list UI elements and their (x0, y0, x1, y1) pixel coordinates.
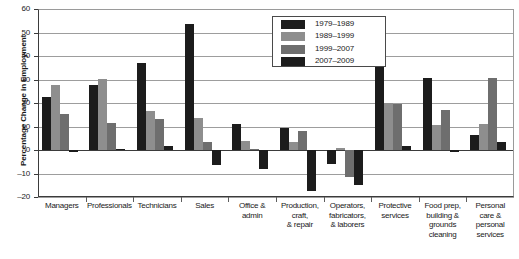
bar-chart: Percentage Change in Employment 60504030… (0, 0, 519, 259)
bar (259, 150, 268, 169)
bar (307, 150, 316, 191)
bar (423, 78, 432, 150)
y-tick-label: 20 (0, 98, 30, 107)
bar (116, 149, 125, 150)
legend-item: 1999–2007 (273, 44, 385, 55)
bar (203, 142, 212, 150)
legend-item: 1979–1989 (273, 19, 385, 30)
y-tick-mark (34, 33, 38, 34)
legend-item: 1989–1999 (273, 31, 385, 42)
bar (146, 111, 155, 150)
bar (51, 85, 60, 150)
bar (60, 114, 69, 150)
bar (89, 85, 98, 150)
x-axis-label: Professionals (86, 201, 134, 211)
bar (450, 150, 459, 152)
legend-rows: 1979–19891989–19991999–20072007–2009 (273, 19, 385, 68)
legend-label: 1999–2007 (315, 44, 354, 53)
bar (402, 146, 411, 150)
y-tick-mark (34, 174, 38, 175)
bar (354, 150, 363, 185)
x-axis-label: Office & admin (228, 201, 276, 220)
bar (432, 125, 441, 150)
gridline (38, 103, 514, 104)
legend-label: 1979–1989 (315, 19, 354, 28)
bar (212, 150, 221, 165)
legend-label: 1989–1999 (315, 31, 354, 40)
y-tick-label: 50 (0, 28, 30, 37)
y-tick-mark (34, 127, 38, 128)
x-axis-label: Operators, fabricators, & laborers (324, 201, 372, 230)
x-axis-label: Sales (181, 201, 229, 211)
legend-swatch (281, 32, 305, 41)
y-tick-label: –20 (0, 192, 30, 201)
zero-line (38, 150, 514, 151)
bar (470, 135, 479, 150)
bar (185, 24, 194, 150)
bar (137, 63, 146, 150)
y-tick-mark (34, 9, 38, 10)
bar (336, 148, 345, 150)
bar (441, 110, 450, 150)
bar (250, 149, 259, 150)
bar (107, 123, 116, 150)
bar (232, 124, 241, 150)
bar (488, 78, 497, 150)
legend-label: 2007–2009 (315, 56, 354, 65)
bar (194, 118, 203, 150)
legend-item: 2007–2009 (273, 56, 385, 67)
gridline (38, 80, 514, 81)
y-tick-label: –10 (0, 169, 30, 178)
y-tick-label: 10 (0, 122, 30, 131)
bar (98, 79, 107, 150)
y-tick-label: 40 (0, 51, 30, 60)
bar (345, 150, 354, 177)
y-tick-mark (34, 103, 38, 104)
bar (384, 103, 393, 150)
bar (393, 104, 402, 150)
legend: 1979–19891989–19991999–20072007–2009 (272, 16, 386, 67)
x-axis-label: Food prep, building & grounds cleaning (419, 201, 467, 239)
gridline (38, 174, 514, 175)
bar (289, 142, 298, 150)
bar (155, 119, 164, 150)
bar (164, 146, 173, 150)
legend-swatch (281, 20, 305, 29)
bar (42, 97, 51, 150)
y-tick-mark (34, 150, 38, 151)
x-axis-label: Protective services (371, 201, 419, 220)
y-tick-mark (34, 80, 38, 81)
legend-swatch (281, 57, 305, 66)
y-tick-label: 0 (0, 145, 30, 154)
y-tick-mark (34, 56, 38, 57)
bar (280, 128, 289, 150)
x-axis-label: Personal care & personal services (466, 201, 514, 239)
bar (327, 150, 336, 164)
bar (375, 66, 384, 150)
bar (497, 142, 506, 150)
bar (69, 150, 78, 152)
y-tick-mark (34, 197, 38, 198)
x-axis-label: Technicians (133, 201, 181, 211)
y-tick-label: 30 (0, 75, 30, 84)
bar (241, 141, 250, 150)
bar (479, 124, 488, 150)
legend-swatch (281, 45, 305, 54)
y-tick-label: 60 (0, 4, 30, 13)
bar (298, 131, 307, 150)
x-axis-label: Production, craft, & repair (276, 201, 324, 230)
gridline (38, 9, 514, 10)
x-axis-label: Managers (38, 201, 86, 211)
